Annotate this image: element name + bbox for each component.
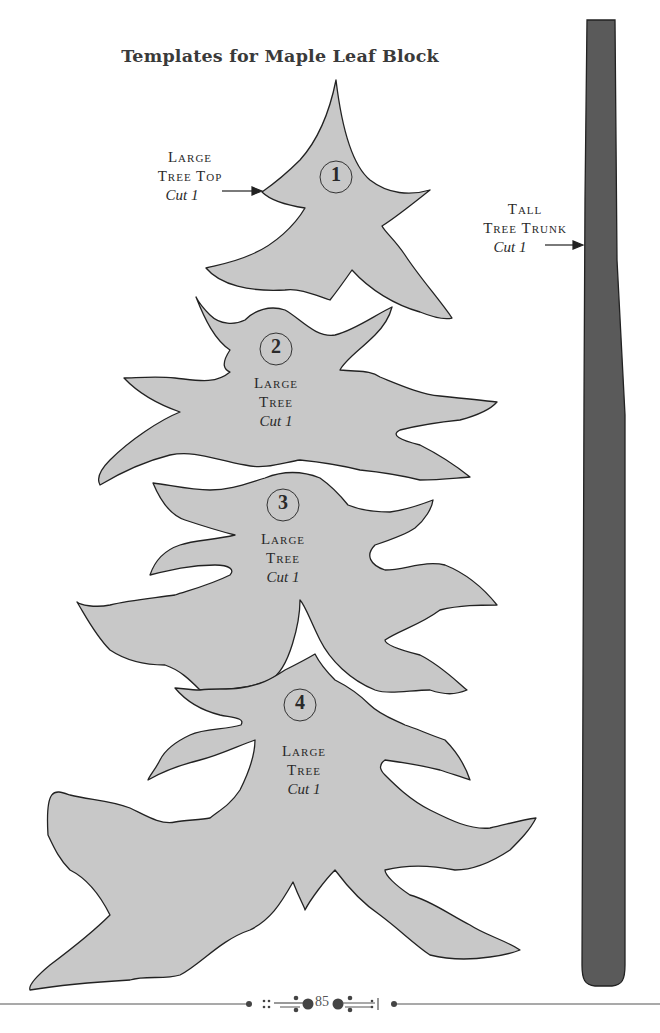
label-line1: Large <box>254 742 354 761</box>
label-line1: Large <box>140 148 240 167</box>
footer-ornament <box>0 996 660 1013</box>
label-line2: Tree Trunk <box>470 219 580 238</box>
template-number-3: 3 <box>267 493 299 512</box>
label-line2: Tree <box>233 549 333 568</box>
label-cut: Cut 1 <box>254 780 354 799</box>
template-number-4: 4 <box>284 693 316 712</box>
label-cut: Cut 1 <box>233 568 333 587</box>
label-line1: Large <box>233 530 333 549</box>
label-cut: Cut 1 <box>226 412 326 431</box>
label-cut: Cut 1 <box>470 238 580 257</box>
label-cut: Cut 1 <box>140 186 240 205</box>
label-line2: Tree <box>254 761 354 780</box>
label-line1: Large <box>226 374 326 393</box>
label-line2: Tree <box>226 393 326 412</box>
template-artwork <box>0 0 660 1033</box>
label-piece-4: Large Tree Cut 1 <box>254 742 354 799</box>
page-number: 85 <box>315 994 329 1010</box>
template-number-2: 2 <box>260 337 292 356</box>
label-line1: Tall <box>470 200 580 219</box>
template-piece-4 <box>30 654 536 990</box>
label-piece-2: Large Tree Cut 1 <box>226 374 326 431</box>
label-trunk: Tall Tree Trunk Cut 1 <box>470 200 580 257</box>
template-piece-1 <box>206 80 452 319</box>
label-piece-3: Large Tree Cut 1 <box>233 530 333 587</box>
template-number-1: 1 <box>320 165 352 184</box>
label-line2: Tree Top <box>140 167 240 186</box>
label-tree-top: Large Tree Top Cut 1 <box>140 148 240 205</box>
tree-trunk-template <box>582 20 625 986</box>
